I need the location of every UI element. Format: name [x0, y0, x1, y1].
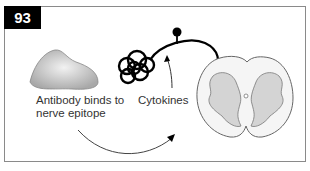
axon-terminal-icon: [173, 28, 182, 37]
curved-arrow-icon: [78, 130, 172, 154]
antibody-label-line1: Antibody binds to: [36, 94, 124, 107]
antibody-blob-icon: [30, 50, 98, 89]
spinal-cord-icon: [197, 56, 293, 137]
antibody-label: Antibody binds to nerve epitope: [36, 94, 124, 120]
cytokines-label: Cytokines: [138, 94, 189, 107]
diagram-canvas: [0, 0, 310, 171]
tangled-neuron-icon: [119, 51, 154, 83]
antibody-label-line2: nerve epitope: [36, 107, 124, 120]
cytokine-arrow-icon: [167, 58, 172, 88]
